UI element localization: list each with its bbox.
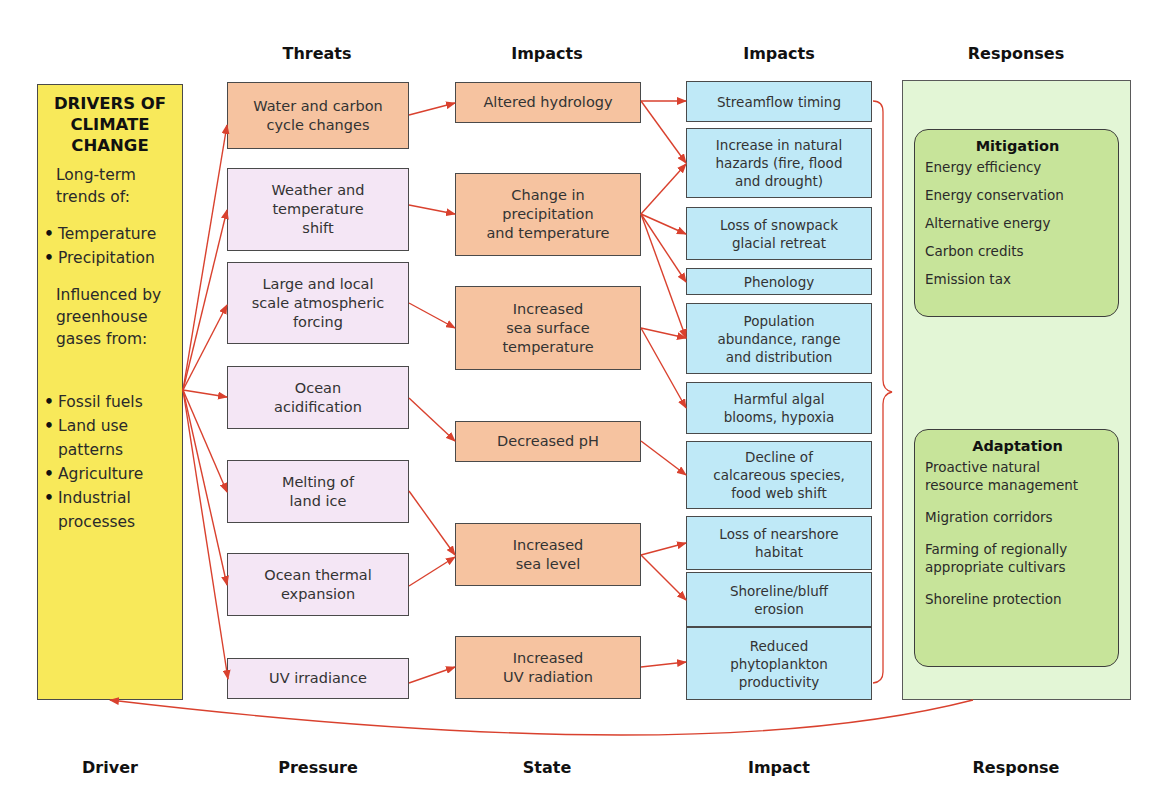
impact-shoreline-erosion: Shoreline/bluff erosion [686,572,872,627]
impact-phytoplankton: Reduced phytoplankton productivity [686,627,872,700]
trend-item: Temperature [46,222,174,246]
responses-panel: Mitigation Energy efficiency Energy cons… [902,80,1131,700]
threat-uv-irradiance: UV irradiance [227,658,409,699]
impact-phenology: Phenology [686,268,872,295]
source-item: Industrial processes [46,486,174,534]
adaptation-item: Migration corridors [925,508,1110,526]
state-decreased-ph: Decreased pH [455,421,641,462]
impact-calcareous-species: Decline of calcareous species, food web … [686,441,872,509]
impact-harmful-algal-blooms: Harmful algal blooms, hypoxia [686,382,872,434]
adaptation-item: Farming of regionally appropriate cultiv… [925,540,1110,576]
state-sea-level: Increased sea level [455,523,641,586]
mitigation-item: Energy conservation [925,186,1110,204]
trends-list: Temperature Precipitation [46,222,174,270]
mitigation-item: Emission tax [925,270,1110,288]
impact-population-abundance: Population abundance, range and distribu… [686,303,872,374]
threat-ocean-acidification: Ocean acidification [227,366,409,429]
mitigation-item: Carbon credits [925,242,1110,260]
header-responses: Responses [916,44,1116,63]
feedback-arrow [110,700,973,735]
impact-natural-hazards: Increase in natural hazards (fire, flood… [686,128,872,198]
footer-pressure: Pressure [218,758,418,777]
threat-water-carbon: Water and carbon cycle changes [227,82,409,149]
threat-melting-land-ice: Melting of land ice [227,460,409,523]
adaptation-item: Shoreline protection [925,590,1110,608]
influence-intro: Influenced by greenhouse gases from: [46,284,174,350]
drivers-title: DRIVERS OF CLIMATE CHANGE [46,93,174,156]
state-altered-hydrology: Altered hydrology [455,82,641,123]
source-item: Land use patterns [46,414,174,462]
mitigation-item: Alternative energy [925,214,1110,232]
source-item: Agriculture [46,462,174,486]
footer-state: State [447,758,647,777]
adaptation-item: Proactive natural resource management [925,458,1110,494]
mitigation-title: Mitigation [925,138,1110,154]
mitigation-group: Mitigation Energy efficiency Energy cons… [914,129,1119,317]
trend-item: Precipitation [46,246,174,270]
threat-ocean-thermal-expansion: Ocean thermal expansion [227,553,409,616]
footer-impact: Impact [679,758,879,777]
impact-nearshore-habitat: Loss of nearshore habitat [686,516,872,570]
source-item: Fossil fuels [46,390,174,414]
state-uv-radiation: Increased UV radiation [455,636,641,699]
impact-streamflow-timing: Streamflow timing [686,81,872,122]
threat-weather-temperature: Weather and temperature shift [227,168,409,251]
adaptation-title: Adaptation [925,438,1110,454]
impacts-brace [873,101,892,683]
footer-driver: Driver [10,758,210,777]
footer-response: Response [916,758,1116,777]
drivers-box: DRIVERS OF CLIMATE CHANGE Long-term tren… [37,84,183,700]
impact-snowpack-glacial: Loss of snowpack glacial retreat [686,207,872,260]
trends-intro: Long-term trends of: [46,164,174,208]
threat-atmospheric-forcing: Large and local scale atmospheric forcin… [227,262,409,344]
adaptation-group: Adaptation Proactive natural resource ma… [914,429,1119,667]
header-impacts: Impacts [679,44,879,63]
header-impacts-state: Impacts [447,44,647,63]
header-threats: Threats [217,44,417,63]
state-precipitation-temperature: Change in precipitation and temperature [455,173,641,256]
sources-list: Fossil fuels Land use patterns Agricultu… [46,390,174,534]
mitigation-item: Energy efficiency [925,158,1110,176]
state-sea-surface-temperature: Increased sea surface temperature [455,286,641,370]
